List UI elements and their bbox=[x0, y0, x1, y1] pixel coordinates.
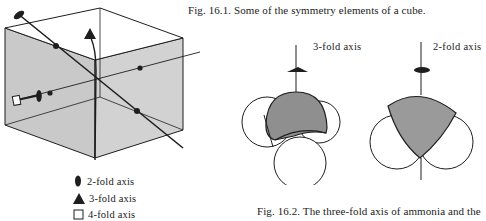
water-molecule bbox=[370, 42, 473, 180]
left-axis-label: 3-fold axis bbox=[313, 41, 362, 52]
cube-diagram bbox=[0, 0, 200, 165]
triangle-filled-icon bbox=[73, 193, 85, 204]
ammonia-molecule bbox=[242, 45, 340, 185]
two-fold-axis-icon bbox=[36, 90, 42, 102]
right-axis-label: 2-fold axis bbox=[433, 41, 482, 52]
legend-label: 3-fold axis bbox=[89, 193, 136, 204]
ellipse-filled-icon bbox=[73, 175, 83, 187]
legend-three-fold: 3-fold axis bbox=[73, 193, 136, 204]
legend-two-fold: 2-fold axis bbox=[73, 175, 134, 187]
legend-label: 4-fold axis bbox=[88, 209, 135, 220]
square-open-icon bbox=[73, 209, 84, 220]
figure-16-1-caption: Fig. 16.1. Some of the symmetry elements… bbox=[188, 4, 426, 16]
three-fold-axis-icon bbox=[287, 67, 308, 72]
four-fold-axis-icon bbox=[12, 95, 20, 105]
legend-label: 2-fold axis bbox=[87, 176, 134, 187]
two-fold-axis-icon bbox=[414, 67, 430, 73]
molecule-diagrams bbox=[220, 40, 486, 185]
legend-four-fold: 4-fold axis bbox=[73, 209, 135, 220]
figure-16-2-caption: Fig. 16.2. The three-fold axis of ammoni… bbox=[257, 205, 481, 217]
